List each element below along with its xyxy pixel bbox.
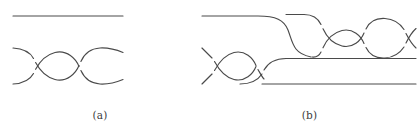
braid-b-right-strandC-seg1 bbox=[312, 52, 321, 57]
braid-a-strand2-seg3 bbox=[81, 71, 123, 84]
lower-right-strand-b-2 bbox=[264, 59, 416, 71]
braid-b-left-strandB-seg2 bbox=[215, 52, 257, 70]
braid-a-strand1-seg1 bbox=[13, 48, 34, 59]
braid-b-left-strandB-seg1 bbox=[202, 74, 212, 84]
braid-b-right-strandC-seg3 bbox=[366, 47, 404, 58]
braid-a-strand1-seg3 bbox=[81, 48, 123, 61]
braid-b-right-strandD-seg1 bbox=[304, 15, 321, 25]
panel-b: (b) bbox=[200, 0, 419, 137]
upper-left-strand-b bbox=[202, 16, 311, 57]
braid-a-strand1-seg2 bbox=[36, 63, 79, 80]
braid-a-strand2-seg2 bbox=[36, 52, 79, 69]
braid-b-left-strandA-seg1 bbox=[202, 48, 212, 58]
knot-diagram-b bbox=[200, 0, 419, 110]
caption-panel-a: (a) bbox=[0, 110, 200, 121]
caption-panel-b: (b) bbox=[200, 110, 419, 121]
panel-a: (a) bbox=[0, 0, 200, 137]
knot-diagram-a bbox=[0, 0, 200, 110]
figure-root: (a) bbox=[0, 0, 419, 137]
braid-b-left-strandA-seg2 bbox=[215, 62, 257, 80]
braid-a-strand2-seg1 bbox=[13, 74, 34, 85]
braid-b-right-strandD-seg3 bbox=[366, 18, 404, 29]
braid-b-right-strandD-seg2 bbox=[323, 29, 364, 47]
